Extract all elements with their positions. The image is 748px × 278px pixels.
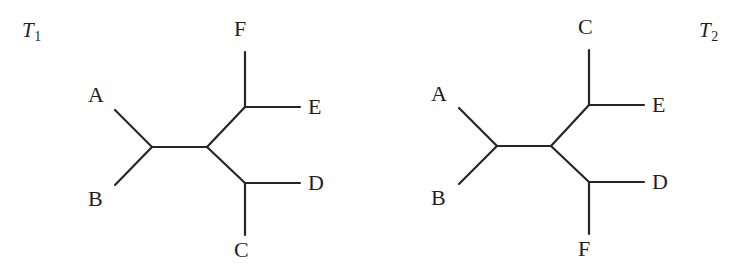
- tree-t1-leaf-label-c: C: [234, 239, 249, 261]
- tree-t1-branches: [0, 0, 748, 278]
- tree-t2-leaf-label-b: B: [431, 187, 446, 209]
- tree-caption-t1: T1: [22, 20, 41, 44]
- tree-t2-leaf-label-c: C: [578, 16, 593, 38]
- tree-t2-internal-edge-upper: [551, 105, 589, 146]
- tree-t2-edge-a: [459, 108, 497, 146]
- tree-t1-leaf-label-d: D: [308, 172, 324, 194]
- tree-t2-internal-edge-lower: [551, 146, 589, 182]
- tree-t1-leaf-label-b: B: [88, 188, 103, 210]
- tree-t1-edge-b: [115, 147, 152, 185]
- figure-canvas: T1 A B F E D C T2 A B C E D F: [0, 0, 748, 278]
- tree-t2-leaf-label-a: A: [431, 83, 447, 105]
- tree-t1-edge-a: [115, 110, 152, 147]
- tree-t1-leaf-label-f: F: [234, 18, 246, 40]
- tree-caption-t2-base: T: [699, 18, 711, 42]
- tree-t2-leaf-label-e: E: [652, 94, 665, 116]
- tree-t2-leaf-label-f: F: [578, 238, 590, 260]
- tree-caption-t2: T2: [699, 20, 718, 44]
- tree-t2-leaf-label-d: D: [652, 171, 668, 193]
- tree-caption-t2-subscript: 2: [711, 29, 718, 44]
- tree-t1-leaf-label-e: E: [308, 96, 321, 118]
- tree-caption-t1-subscript: 1: [34, 29, 41, 44]
- tree-t1-internal-edge-upper: [207, 107, 245, 147]
- tree-t1-internal-edge-lower: [207, 147, 245, 183]
- tree-caption-t1-base: T: [22, 18, 34, 42]
- tree-t1-leaf-label-a: A: [88, 84, 104, 106]
- tree-t2-edge-b: [459, 146, 497, 184]
